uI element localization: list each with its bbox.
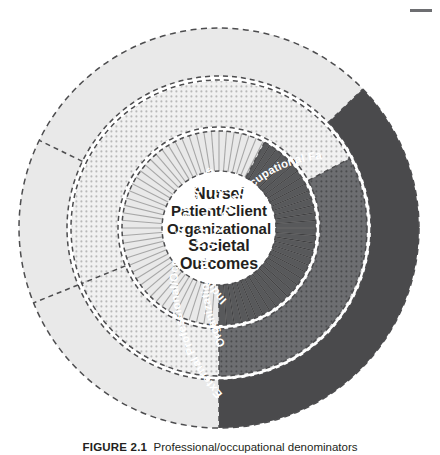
figure-caption-text: Professional/occupational denominators bbox=[154, 441, 358, 453]
figure-caption: FIGURE 2.1 Professional/occupational den… bbox=[0, 439, 440, 455]
concentric-rings-diagram: Nurse/Patient/ClientOrganizationalSociet… bbox=[0, 0, 440, 440]
figure-caption-number: FIGURE 2.1 bbox=[83, 441, 148, 453]
figure-root: Nurse/Patient/ClientOrganizationalSociet… bbox=[0, 0, 440, 455]
center-text-line-4: Outcomes bbox=[180, 255, 258, 272]
